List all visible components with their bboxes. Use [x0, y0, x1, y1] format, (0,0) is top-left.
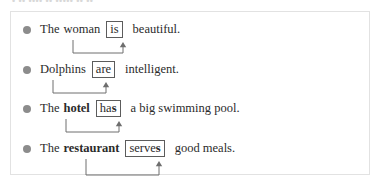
- verb-box: are: [92, 61, 115, 78]
- example-row: Dolphinsareintelligent.: [11, 60, 369, 100]
- example-sentence: Dolphinsareintelligent.: [23, 60, 179, 79]
- page-root: • •• •••• •• ••••• •• •• Thewomanisbeaut…: [0, 0, 384, 195]
- verb-stem: serve: [129, 141, 155, 155]
- sentence-lead-word: The: [40, 20, 59, 39]
- example-sentence: Thewomanisbeautiful.: [23, 20, 180, 39]
- bullet-icon: [23, 66, 31, 74]
- sentence-subject: hotel: [63, 99, 89, 118]
- verb-stem: ha: [100, 101, 112, 115]
- sentence-subject: restaurant: [63, 139, 119, 158]
- bullet-icon: [23, 105, 31, 113]
- sentence-lead-word: The: [40, 99, 59, 118]
- sentence-subject: Dolphins: [40, 60, 86, 79]
- example-row: Thehotelhasa big swimming pool.: [11, 99, 369, 139]
- verb-box: is: [106, 21, 122, 38]
- verb-suffix: s: [112, 101, 117, 115]
- verb-suffix: s: [156, 141, 161, 155]
- example-row: Therestaurantservesgood meals.: [11, 139, 369, 179]
- examples-panel: Thewomanisbeautiful.Dolphinsareintellige…: [10, 11, 370, 175]
- example-row: Thewomanisbeautiful.: [11, 20, 369, 60]
- sentence-tail: good meals.: [175, 139, 235, 158]
- bullet-icon: [23, 145, 31, 153]
- examples-list: Thewomanisbeautiful.Dolphinsareintellige…: [11, 12, 369, 174]
- bullet-icon: [23, 26, 31, 34]
- sentence-tail: intelligent.: [125, 60, 179, 79]
- sentence-subject: woman: [63, 20, 100, 39]
- example-sentence: Therestaurantservesgood meals.: [23, 139, 235, 158]
- verb-box: has: [96, 100, 121, 117]
- clipped-header-text: • •• •••• •• ••••• •• ••: [12, 0, 232, 5]
- verb-box: serves: [125, 140, 164, 157]
- verb-stem: are: [96, 62, 111, 76]
- example-sentence: Thehotelhasa big swimming pool.: [23, 99, 240, 118]
- sentence-lead-word: The: [40, 139, 59, 158]
- sentence-tail: a big swimming pool.: [131, 99, 240, 118]
- verb-stem: is: [110, 22, 118, 36]
- sentence-tail: beautiful.: [133, 20, 181, 39]
